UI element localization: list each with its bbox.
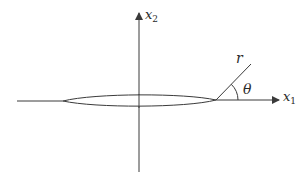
x1-label: x1 (283, 89, 296, 106)
x2-label: x2 (145, 7, 158, 24)
r-label: r (236, 50, 244, 66)
diagram-canvas: x2 x1 r θ (0, 0, 306, 183)
theta-label: θ (243, 81, 252, 97)
theta-arc (231, 84, 238, 100)
